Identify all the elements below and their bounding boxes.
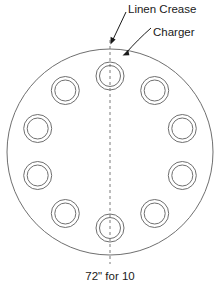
charger-3 bbox=[168, 115, 196, 143]
charger-8 bbox=[24, 162, 52, 190]
linen-crease-leader bbox=[111, 12, 127, 45]
charger-4 bbox=[168, 162, 196, 190]
charger-5 bbox=[141, 200, 169, 228]
diagram-caption: 72" for 10 bbox=[85, 270, 134, 282]
charger-leader bbox=[123, 28, 152, 56]
round-table-diagram: Linen Crease Charger 72" for 10 bbox=[0, 0, 220, 282]
charger-10 bbox=[51, 77, 79, 105]
linen-crease-arrow-icon bbox=[111, 37, 116, 45]
charger-7 bbox=[51, 200, 79, 228]
label-charger: Charger bbox=[153, 26, 195, 38]
charger-9 bbox=[24, 115, 52, 143]
table-layout-svg: Linen Crease Charger 72" for 10 bbox=[0, 0, 220, 282]
charger-2 bbox=[141, 77, 169, 105]
label-linen-crease: Linen Crease bbox=[128, 3, 196, 15]
table-outline bbox=[7, 49, 213, 255]
